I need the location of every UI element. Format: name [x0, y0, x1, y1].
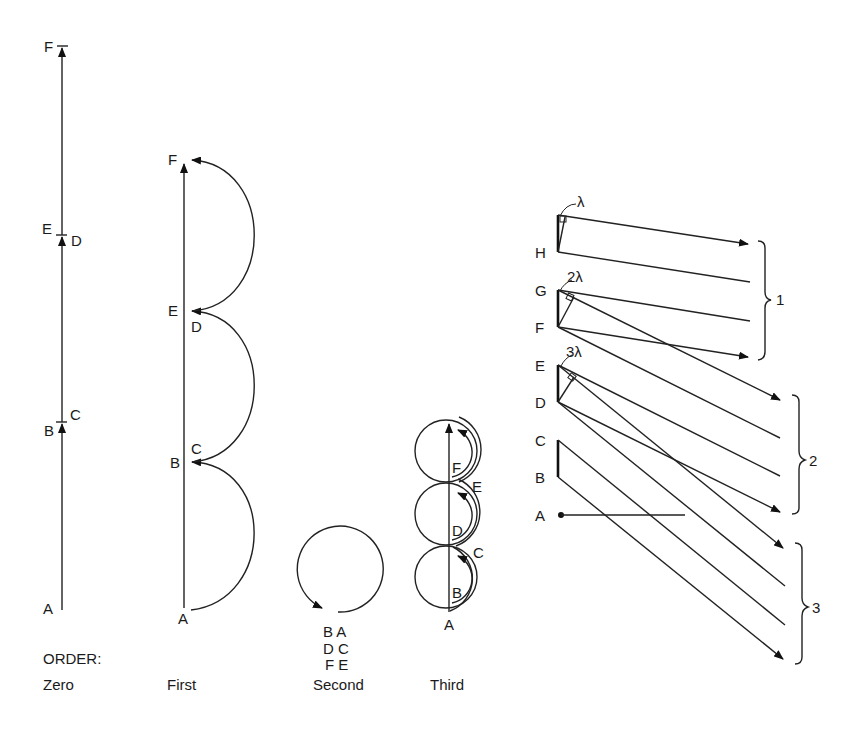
label-d: D [535, 394, 546, 411]
caption-zero: Zero [43, 676, 74, 693]
label-f: F [168, 151, 177, 168]
label-f: F [452, 459, 461, 476]
label-2lambda: 2λ [567, 268, 583, 285]
label-c: C [473, 544, 484, 561]
label-h: H [535, 244, 546, 261]
label-a: A [535, 507, 545, 524]
label-e: E [472, 478, 482, 495]
label-e: E [535, 357, 545, 374]
circle-middle [415, 483, 477, 545]
ray-b-3 [558, 477, 783, 659]
brace-group-1 [758, 241, 771, 360]
label-d: D [452, 522, 463, 539]
diffraction-order-diagram: F E D B C A F E D B C A B A D C F E [0, 0, 867, 733]
circle-top [415, 420, 477, 482]
grating-figure: H G F E D C B A λ 2λ 3λ 1 2 3 [535, 193, 820, 664]
label-d: D [191, 318, 202, 335]
ray-d-2 [558, 402, 780, 512]
label-g: G [535, 282, 547, 299]
ray-f-2 [558, 327, 780, 438]
caption-first: First [167, 676, 197, 693]
group-label-2: 2 [809, 452, 817, 469]
label-d: D [71, 232, 82, 249]
label-e: E [42, 220, 52, 237]
pair-fe: F E [325, 656, 348, 673]
label-a: A [178, 610, 188, 627]
brace-group-2 [792, 395, 805, 514]
group-label-1: 1 [776, 291, 784, 308]
order-heading: ORDER: [43, 650, 101, 667]
label-b: B [170, 454, 180, 471]
ray-d-3 [558, 402, 785, 586]
ray-g-1 [558, 290, 750, 321]
ray-e-2 [558, 365, 780, 476]
group-label-3: 3 [812, 599, 820, 616]
label-b: B [535, 469, 545, 486]
pair-ba: B A [323, 623, 346, 640]
first-order-figure: F E D B C A [168, 151, 254, 627]
label-f: F [44, 38, 53, 55]
second-order-figure: B A D C F E [297, 526, 383, 673]
label-c: C [191, 440, 202, 457]
caption-second: Second [313, 676, 364, 693]
ray-h-top [558, 215, 748, 244]
zero-order-figure: F E D B C A [42, 38, 82, 617]
arc-d-to-f [192, 160, 254, 311]
caption-third: Third [430, 676, 464, 693]
label-b: B [452, 584, 462, 601]
label-c: C [535, 432, 546, 449]
label-3lambda: 3λ [566, 343, 582, 360]
label-a: A [444, 616, 454, 633]
label-c: C [70, 406, 81, 423]
ray-g-2 [558, 290, 780, 400]
label-lambda: λ [577, 193, 585, 210]
arc-a-to-b [191, 462, 254, 610]
pair-dc: D C [323, 640, 349, 657]
circle-bottom [415, 546, 477, 608]
ray-c-3 [558, 440, 785, 625]
brace-group-3 [795, 543, 808, 664]
label-b: B [44, 422, 54, 439]
ray-e-3 [558, 365, 783, 548]
label-e: E [168, 302, 178, 319]
third-order-figure: F E D C B A [415, 417, 484, 633]
label-a: A [43, 600, 53, 617]
ray-h [558, 252, 750, 282]
label-f: F [535, 319, 544, 336]
full-circle-arrow [297, 526, 383, 612]
lambda-leader [560, 204, 576, 216]
